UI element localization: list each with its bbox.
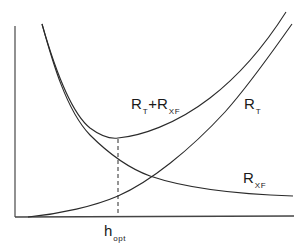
diagram-canvas	[0, 0, 306, 251]
label-subscript: opt	[113, 234, 126, 243]
label-subscript: XF	[169, 107, 180, 116]
x-axis	[15, 216, 294, 217]
label-plus: +	[148, 95, 157, 112]
label-subscript: XF	[255, 181, 266, 190]
h-opt-label: hopt	[104, 223, 126, 243]
rt-curve-label: RT	[244, 96, 261, 116]
rxf-curve-label: RXF	[243, 170, 266, 190]
label-main: R	[244, 95, 255, 112]
label-subscript: T	[256, 107, 261, 116]
label-main: h	[104, 222, 112, 239]
sum-curve-label: RT+RXF	[131, 96, 180, 116]
label-main: R	[157, 95, 168, 112]
label-main: R	[131, 95, 142, 112]
label-main: R	[243, 169, 254, 186]
